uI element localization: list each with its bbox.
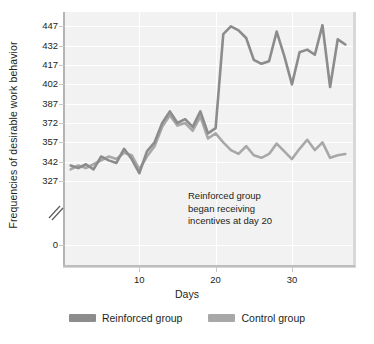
y-axis-tick-mark-zero [59,245,64,246]
annotation-line-2: began receiving [188,203,272,216]
x-axis-tick-label: 10 [134,274,145,285]
y-axis-tick-mark [59,123,64,124]
legend-item-label: Control group [241,312,305,324]
y-axis-tick-label: 447 [42,21,58,31]
y-axis-zero-label: 0 [53,240,58,250]
legend-item[interactable]: Control group [208,312,305,324]
y-axis-break-icon [47,203,65,223]
series-line [71,25,346,173]
y-axis-tick-label: 327 [42,176,58,186]
annotation-line-1: Reinforced group [188,190,272,203]
y-axis-tick-label: 402 [42,79,58,89]
y-axis-tick-mark [59,26,64,27]
chart-figure: Frequencies of desirable work behavior 3… [0,0,374,344]
y-axis-tick-mark [59,142,64,143]
chart-legend: Reinforced groupControl group [0,312,374,324]
y-axis-tick-label: 432 [42,41,58,51]
y-axis-tick-mark [59,65,64,66]
y-axis-tick-mark [59,162,64,163]
y-axis-tick-label: 342 [42,157,58,167]
x-axis-tick-label: 30 [287,274,298,285]
y-axis-tick-label: 417 [42,60,58,70]
y-axis-tick-mark [59,46,64,47]
y-axis-tick-labels: 3273423573723874024174324470 [26,0,62,270]
y-axis-tick-mark [59,181,64,182]
y-axis-tick-mark [59,104,64,105]
chart-annotation: Reinforced group began receiving incenti… [188,190,272,228]
x-axis-line [63,265,355,267]
x-axis-tick-label: 20 [210,274,221,285]
y-axis-tick-label: 357 [42,137,58,147]
annotation-line-3: incentives at day 20 [188,215,272,228]
y-axis-tick-label: 387 [42,99,58,109]
x-axis-title: Days [0,288,374,300]
legend-item[interactable]: Reinforced group [69,312,183,324]
legend-color-swatch [69,314,96,322]
y-axis-tick-mark [59,84,64,85]
y-axis-title-text: Frequencies of desirable work behavior [7,41,19,228]
y-axis-title: Frequencies of desirable work behavior [0,0,26,270]
legend-color-swatch [208,314,235,322]
y-axis-line [63,12,65,265]
legend-item-label: Reinforced group [102,312,183,324]
y-axis-tick-label: 372 [42,118,58,128]
